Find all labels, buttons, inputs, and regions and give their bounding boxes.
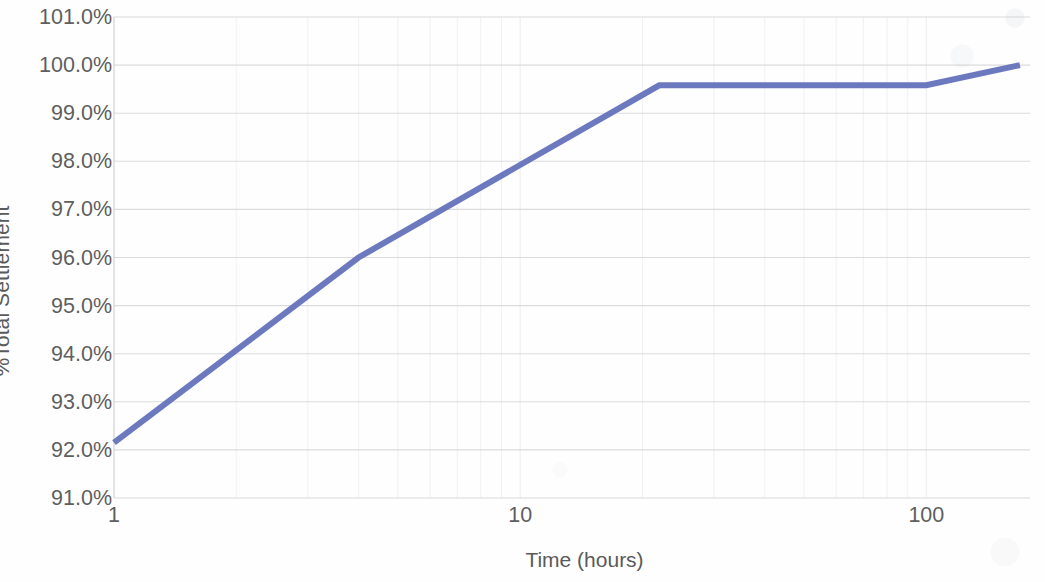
y-axis-tick-label: 92.0% xyxy=(30,437,112,462)
horizontal-gridlines xyxy=(114,17,1030,498)
plot-area xyxy=(114,17,1030,498)
x-axis-tick-label: 10 xyxy=(508,503,532,528)
y-axis-tick-label: 100.0% xyxy=(30,53,112,78)
series-line xyxy=(114,65,1020,443)
y-axis-tick-label: 93.0% xyxy=(30,389,112,414)
y-axis-title-label: %Total Settlement xyxy=(0,206,14,377)
x-axis-title: Time (hours) xyxy=(0,548,1045,572)
y-axis-tick-label: 94.0% xyxy=(30,341,112,366)
y-axis-tick-label: 98.0% xyxy=(30,149,112,174)
y-axis-tick-label: 99.0% xyxy=(30,101,112,126)
y-axis-tick-label: 101.0% xyxy=(30,5,112,30)
x-axis-title-label: Time (hours) xyxy=(525,548,643,572)
x-axis-tick-label: 1 xyxy=(108,503,120,528)
x-axis-tick-label: 100 xyxy=(908,503,944,528)
data-series-layer xyxy=(114,65,1020,443)
chart-plot-svg xyxy=(114,17,1030,498)
chart-container: %Total Settlement 101.0%100.0%99.0%98.0%… xyxy=(0,0,1045,582)
y-axis-tick-label: 95.0% xyxy=(30,293,112,318)
y-axis-tick-label: 96.0% xyxy=(30,245,112,270)
x-axis-tick-labels: 110100 xyxy=(0,503,1045,539)
y-axis-tick-labels: 101.0%100.0%99.0%98.0%97.0%96.0%95.0%94.… xyxy=(30,0,112,582)
y-axis-tick-label: 97.0% xyxy=(30,197,112,222)
